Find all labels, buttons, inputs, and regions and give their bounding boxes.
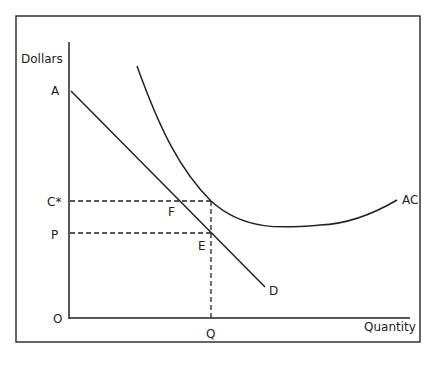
- point-label-a: A: [51, 84, 60, 98]
- x-axis-label: Quantity: [364, 320, 416, 334]
- curve-label-d: D: [269, 284, 278, 298]
- point-label-q: Q: [206, 327, 215, 341]
- average-cost-curve: [137, 66, 397, 227]
- diagram-canvas: Dollars A C* P F E O Q D AC Quantity: [0, 0, 436, 366]
- curve-label-ac: AC: [402, 193, 418, 207]
- y-axis-label: Dollars: [21, 52, 63, 66]
- point-label-p: P: [51, 228, 58, 242]
- origin-label: O: [53, 312, 62, 326]
- point-label-e: E: [198, 239, 206, 253]
- demand-curve: [71, 91, 265, 287]
- point-label-f: F: [168, 205, 175, 219]
- frame-border: [16, 16, 420, 342]
- point-label-c-star: C*: [47, 195, 61, 209]
